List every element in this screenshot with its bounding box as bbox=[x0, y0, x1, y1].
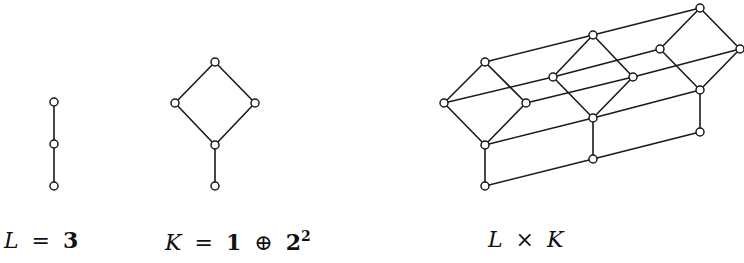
edge-LxK-cross bbox=[593, 8, 700, 35]
edge-LxK bbox=[553, 35, 593, 77]
edge-LxK-cross bbox=[485, 35, 593, 62]
edge-LxK bbox=[700, 49, 740, 90]
edge-LxK-cross bbox=[593, 90, 700, 118]
edge-LxK-cross bbox=[444, 77, 553, 103]
edge-LxK bbox=[660, 8, 700, 49]
node-LxK bbox=[696, 128, 704, 136]
label-LxK-left: L bbox=[488, 227, 503, 252]
node-LxK bbox=[696, 86, 704, 94]
label-K-exp: 2 bbox=[301, 228, 311, 244]
node-L bbox=[50, 182, 58, 190]
node-LxK bbox=[589, 114, 597, 122]
edge-LxK-cross bbox=[526, 77, 633, 103]
label-K-one: 1 bbox=[226, 229, 241, 255]
label-L-var: L bbox=[4, 228, 19, 253]
edge-LxK-cross bbox=[553, 49, 660, 77]
node-LxK bbox=[440, 99, 448, 107]
label-LxK-right: K bbox=[547, 227, 563, 252]
edge-LxK bbox=[485, 103, 526, 145]
edge-LxK-cross bbox=[593, 132, 700, 159]
edge-LxK-cross bbox=[633, 49, 740, 77]
edge-LxK-cross bbox=[485, 159, 593, 186]
edges-layer bbox=[54, 8, 740, 186]
label-L-value: 3 bbox=[63, 227, 78, 253]
node-LxK bbox=[481, 182, 489, 190]
edge-K bbox=[215, 62, 255, 103]
lattice-diagrams bbox=[0, 0, 744, 263]
edge-LxK bbox=[444, 103, 485, 145]
node-L bbox=[50, 98, 58, 106]
edge-K bbox=[175, 62, 215, 103]
node-K bbox=[251, 99, 259, 107]
edge-LxK bbox=[485, 62, 526, 103]
edge-K bbox=[175, 103, 215, 145]
node-K bbox=[171, 99, 179, 107]
edge-LxK bbox=[444, 62, 485, 103]
edge-LxK bbox=[553, 77, 593, 118]
label-K-two: 2 bbox=[286, 229, 301, 255]
edge-LxK bbox=[660, 49, 700, 90]
node-LxK bbox=[589, 31, 597, 39]
edge-K bbox=[215, 103, 255, 145]
node-LxK bbox=[481, 58, 489, 66]
label-K-var: K bbox=[165, 230, 181, 255]
node-LxK bbox=[481, 141, 489, 149]
node-LxK bbox=[736, 45, 744, 53]
edge-LxK bbox=[593, 35, 633, 77]
node-K bbox=[211, 58, 219, 66]
node-K bbox=[211, 182, 219, 190]
label-K-eq: = bbox=[188, 230, 218, 255]
edge-LxK bbox=[593, 77, 633, 118]
nodes-layer bbox=[50, 4, 744, 190]
label-K-oplus: ⊕ bbox=[248, 230, 278, 255]
node-L bbox=[50, 140, 58, 148]
node-LxK bbox=[549, 73, 557, 81]
label-L-eq: = bbox=[26, 228, 56, 253]
node-LxK bbox=[629, 73, 637, 81]
node-LxK bbox=[696, 4, 704, 12]
node-LxK bbox=[522, 99, 530, 107]
edge-LxK bbox=[700, 8, 740, 49]
edge-LxK-cross bbox=[485, 118, 593, 145]
label-L: L = 3 bbox=[4, 229, 78, 252]
node-K bbox=[211, 141, 219, 149]
label-LxK-times: × bbox=[510, 227, 540, 252]
label-LxK: L × K bbox=[488, 229, 563, 251]
node-LxK bbox=[589, 155, 597, 163]
label-K: K = 1 ⊕ 22 bbox=[165, 229, 311, 254]
node-LxK bbox=[656, 45, 664, 53]
